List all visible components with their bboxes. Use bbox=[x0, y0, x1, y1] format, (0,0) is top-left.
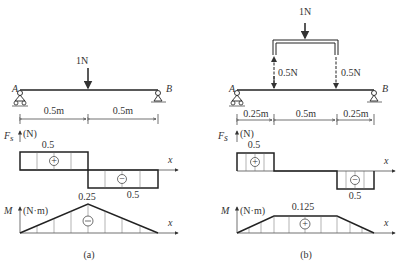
shear-diagram-b: F s (N) 0.5 x + − 0.5 bbox=[217, 128, 395, 201]
moment-diagram-a: M (N·m) 0.25 x bbox=[3, 191, 178, 233]
caption-a: (a) bbox=[83, 249, 94, 261]
roller-support-b bbox=[151, 91, 166, 103]
moment-axis-symbol-a: M bbox=[3, 205, 13, 216]
dim-a-2: 0.5m bbox=[113, 105, 134, 116]
panel-b: 1N 0.5N 0.5N A B bbox=[217, 6, 395, 261]
shear-top-value-a: 0.5 bbox=[42, 139, 55, 150]
support-label-a: A bbox=[11, 83, 19, 94]
load-label-b: 1N bbox=[299, 6, 311, 17]
reaction-right-b: 0.5N bbox=[341, 67, 361, 78]
shear-axis-unit-a: (N) bbox=[23, 128, 37, 140]
shear-bottom-value-a: 0.5 bbox=[127, 189, 140, 200]
moment-axis-symbol-b: M bbox=[220, 205, 230, 216]
support-label-b-b: B bbox=[382, 83, 388, 94]
dim-b-2: 0.5m bbox=[296, 108, 317, 119]
shear-sign-neg-b: − bbox=[352, 174, 358, 185]
moment-axis-unit-a: (N·m) bbox=[23, 205, 48, 217]
load-label-a: 1N bbox=[76, 55, 88, 66]
moment-x-label-a: x bbox=[167, 217, 173, 228]
shear-x-label-a: x bbox=[167, 154, 173, 165]
panel-a: 1N A B 0.5m 0.5m bbox=[3, 55, 178, 261]
reaction-arrows-b: 0.5N 0.5N bbox=[274, 57, 361, 88]
moment-diagram-b: M (N·m) 0.125 x + bbox=[220, 201, 395, 233]
reaction-left-b: 0.5N bbox=[278, 67, 298, 78]
moment-peak-b: 0.125 bbox=[292, 201, 315, 212]
caption-b: (b) bbox=[300, 249, 312, 261]
dimensions-b: 0.25m 0.5m 0.25m bbox=[237, 108, 374, 125]
moment-x-label-b: x bbox=[383, 217, 389, 228]
shear-bottom-value-b: 0.5 bbox=[349, 190, 362, 201]
beam-diagrams: 1N A B 0.5m 0.5m bbox=[0, 0, 402, 275]
shear-sign-neg-a: − bbox=[119, 173, 125, 184]
shear-sign-pos-a: + bbox=[51, 155, 57, 166]
shear-top-value-b: 0.5 bbox=[248, 139, 261, 150]
load-frame-b bbox=[273, 40, 338, 55]
support-label-b: B bbox=[166, 83, 172, 94]
shear-sign-pos-b: + bbox=[252, 156, 258, 167]
shear-diagram-a: F s (N) 0.5 x + − 0.5 bbox=[3, 128, 178, 200]
roller-support-b-b bbox=[367, 91, 382, 103]
dim-a-1: 0.5m bbox=[44, 105, 65, 116]
dimensions-a: 0.5m 0.5m bbox=[20, 105, 158, 124]
moment-peak-a: 0.25 bbox=[78, 191, 96, 202]
dim-b-3: 0.25m bbox=[343, 108, 369, 119]
moment-axis-unit-b: (N·m) bbox=[240, 205, 265, 217]
shear-axis-sub-b: s bbox=[224, 132, 228, 143]
shear-x-label-b: x bbox=[383, 155, 389, 166]
moment-sign-b: + bbox=[302, 218, 308, 229]
support-label-a-b: A bbox=[228, 83, 236, 94]
shear-axis-sub-a: s bbox=[10, 133, 14, 143]
dim-b-1: 0.25m bbox=[243, 108, 269, 119]
